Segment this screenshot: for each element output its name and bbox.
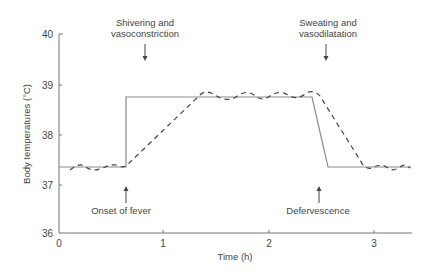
y-tick-label-39: 39 xyxy=(42,80,54,91)
annotation-defervescence: Defervescence xyxy=(286,205,349,216)
x-tick-label-2: 2 xyxy=(266,238,272,249)
annotation-shivering-line2: vasoconstriction xyxy=(111,28,179,39)
annotation-sweating-line2: vasodilatation xyxy=(299,28,357,39)
arrow-up-icon xyxy=(317,186,322,203)
arrow-down-icon xyxy=(324,44,329,61)
y-tick-label-37: 37 xyxy=(42,180,54,191)
annotation-shivering-line1: Shivering and xyxy=(116,17,174,28)
y-tick-label-36: 36 xyxy=(42,228,54,239)
y-tick-label-38: 38 xyxy=(42,130,54,141)
arrow-up-icon xyxy=(124,186,129,203)
arrow-down-icon xyxy=(143,44,148,61)
x-axis-title: Time (h) xyxy=(217,251,252,262)
fever-chart: 40 39 38 37 36 0 1 2 3 Time (h) Body tem… xyxy=(0,0,431,276)
body-temperature-curve xyxy=(70,92,410,170)
x-tick-label-3: 3 xyxy=(371,238,377,249)
y-tick-label-40: 40 xyxy=(42,29,54,40)
annotation-sweating-line1: Sweating and xyxy=(299,17,357,28)
y-axis-title: Body temperatures (°C) xyxy=(21,84,32,184)
x-tick-label-0: 0 xyxy=(56,238,62,249)
annotation-onset: Onset of fever xyxy=(91,205,151,216)
x-tick-label-1: 1 xyxy=(160,238,166,249)
